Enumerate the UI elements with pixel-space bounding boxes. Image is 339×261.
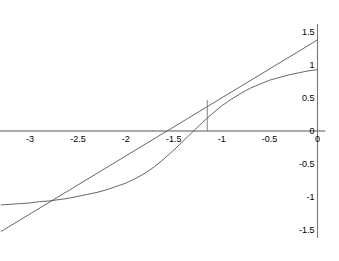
plot-figure: -3-2.5-2-1.5-1-0.50 1.510.50-0.5-1-1.5 — [0, 0, 339, 261]
x-tick-label: 0 — [315, 135, 320, 144]
x-tick-label: -1.5 — [166, 135, 182, 144]
y-tick-label: -0.5 — [299, 160, 315, 169]
y-tick-label: 0.5 — [302, 94, 315, 103]
y-tick-label: -1 — [306, 193, 314, 202]
axes-group — [0, 24, 325, 238]
y-tick-label: 1 — [309, 61, 314, 70]
y-tick-label: 0 — [309, 127, 314, 136]
y-tick-label: 1.5 — [302, 28, 315, 37]
y-tick-label: -1.5 — [299, 226, 315, 235]
plot-canvas — [0, 0, 339, 261]
x-tick-label: -3 — [26, 135, 34, 144]
x-tick-label: -2.5 — [70, 135, 86, 144]
x-tick-label: -0.5 — [262, 135, 278, 144]
x-tick-label: -1 — [218, 135, 226, 144]
x-tick-label: -2 — [122, 135, 130, 144]
